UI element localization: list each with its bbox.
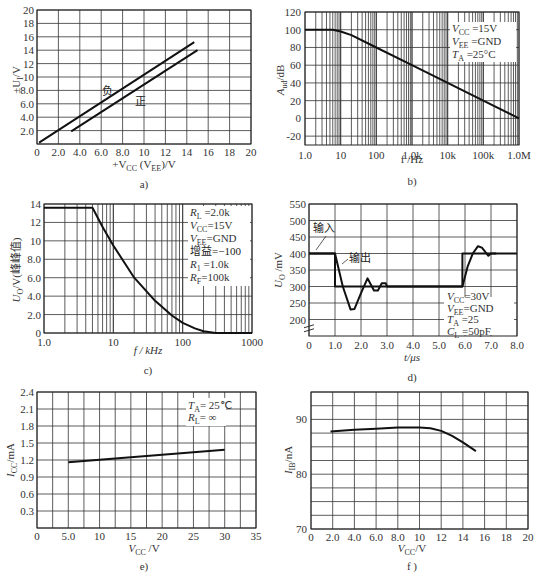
x-axis-label: +VCC (VEE)/V	[112, 158, 176, 173]
svg-text:12: 12	[160, 146, 171, 158]
annotation: CL =50pF	[447, 325, 491, 340]
x-axis-label: t/μs	[404, 351, 420, 363]
svg-text:0: 0	[36, 327, 42, 339]
x-axis-label: f / kHz	[134, 344, 163, 356]
chart-f-series-0	[331, 428, 476, 452]
svg-text:6.0: 6.0	[94, 146, 108, 158]
svg-text:250: 250	[290, 297, 307, 309]
svg-text:4.0: 4.0	[348, 531, 362, 543]
svg-text:0: 0	[34, 530, 40, 542]
svg-text:100: 100	[174, 336, 191, 348]
svg-text:6.0: 6.0	[458, 339, 472, 351]
svg-text:1.0: 1.0	[298, 149, 312, 161]
label-input: 输入	[313, 221, 335, 234]
svg-text:60: 60	[290, 59, 302, 71]
x-axis-label: f /Hz	[401, 153, 423, 165]
svg-text:16: 16	[203, 146, 215, 158]
svg-text:-20: -20	[286, 130, 301, 142]
svg-text:80: 80	[296, 468, 308, 480]
svg-text:0: 0	[306, 339, 312, 351]
y-axis-label: UO /mV	[272, 252, 287, 288]
svg-text:8.0: 8.0	[27, 253, 41, 265]
svg-text:350: 350	[290, 264, 307, 276]
label-negative: 负	[102, 84, 113, 97]
caption-b: b)	[407, 175, 417, 188]
svg-text:35: 35	[251, 530, 263, 542]
svg-text:25: 25	[188, 530, 200, 542]
svg-text:18: 18	[224, 146, 236, 158]
svg-text:400: 400	[290, 248, 307, 260]
svg-text:20: 20	[23, 4, 35, 16]
svg-text:18: 18	[23, 17, 35, 29]
svg-text:7.0: 7.0	[484, 339, 498, 351]
svg-text:15: 15	[125, 530, 137, 542]
svg-text:2.0: 2.0	[52, 146, 66, 158]
svg-text:200: 200	[290, 314, 307, 326]
chart-figure: 02.04.06.08.01012141618202.04.06.08.0101…	[0, 0, 537, 576]
chart-a-series-0	[39, 42, 194, 143]
svg-text:8.0: 8.0	[116, 146, 130, 158]
svg-text:3.0: 3.0	[380, 339, 394, 351]
svg-text:80: 80	[290, 41, 302, 53]
chart-d: 01.02.03.04.05.06.07.08.0550500450400350…	[272, 198, 524, 384]
label-positive: 正	[135, 95, 146, 107]
svg-text:16: 16	[23, 31, 35, 43]
svg-text:20: 20	[523, 531, 535, 543]
svg-text:100: 100	[285, 24, 302, 36]
svg-text:300: 300	[290, 281, 307, 293]
svg-text:10: 10	[94, 530, 106, 542]
svg-text:10k: 10k	[439, 149, 456, 161]
y-axis-label: Aud/dB	[274, 65, 289, 97]
chart-f: 02.04.06.08.0101214161820908070IIB/nAVCC…	[282, 392, 534, 573]
y-axis-label: UO/V(峰峰值)	[10, 237, 25, 302]
x-axis-label: VCC/V	[398, 542, 426, 557]
caption-f: f )	[407, 560, 417, 573]
svg-text:5.0: 5.0	[432, 339, 446, 351]
svg-text:10: 10	[30, 235, 42, 247]
svg-text:4.0: 4.0	[27, 290, 41, 302]
annotation-gain: 增益=−100	[190, 244, 241, 257]
svg-text:14: 14	[30, 198, 42, 210]
svg-text:500: 500	[290, 215, 307, 227]
svg-text:16: 16	[479, 531, 491, 543]
svg-text:40: 40	[290, 77, 302, 89]
chart-c: 1.01010010001412108.06.04.02.00RL =2.0kV…	[10, 198, 264, 377]
y-axis-label: IIB/nA	[282, 446, 297, 475]
svg-text:2.0: 2.0	[354, 339, 368, 351]
svg-text:1.5: 1.5	[20, 437, 34, 449]
svg-text:450: 450	[290, 231, 307, 243]
svg-text:4.0: 4.0	[73, 146, 87, 158]
svg-text:10: 10	[108, 336, 120, 348]
svg-text:12: 12	[23, 58, 34, 70]
svg-text:1.0M: 1.0M	[507, 149, 531, 161]
chart-a: 02.04.06.08.01012141618202.04.06.08.0101…	[10, 4, 257, 191]
svg-text:0: 0	[296, 112, 302, 124]
svg-text:30: 30	[219, 530, 231, 542]
svg-text:2.1: 2.1	[20, 403, 34, 415]
caption-e: e)	[140, 560, 149, 573]
svg-text:1.8: 1.8	[20, 420, 34, 432]
svg-text:1.0: 1.0	[328, 339, 342, 351]
svg-text:2.0: 2.0	[27, 309, 41, 321]
svg-text:0.9: 0.9	[20, 471, 34, 483]
svg-text:0.6: 0.6	[20, 488, 34, 500]
svg-text:70: 70	[296, 523, 308, 535]
svg-text:8.0: 8.0	[20, 84, 34, 96]
label-output: 输出	[349, 251, 371, 264]
svg-text:14: 14	[457, 531, 469, 543]
svg-text:90: 90	[296, 413, 308, 425]
svg-text:2.0: 2.0	[20, 125, 34, 137]
svg-text:20: 20	[157, 530, 169, 542]
svg-text:6.0: 6.0	[369, 531, 383, 543]
svg-text:0: 0	[34, 146, 40, 158]
x-axis-label: VCC /V	[128, 542, 159, 557]
svg-text:14: 14	[23, 44, 35, 56]
caption-a: a)	[140, 178, 149, 191]
svg-text:20: 20	[246, 146, 258, 158]
caption-d: d)	[407, 371, 417, 384]
svg-text:10: 10	[139, 146, 151, 158]
svg-text:2.4: 2.4	[20, 386, 34, 398]
svg-text:5.0: 5.0	[61, 530, 75, 542]
svg-text:6.0: 6.0	[20, 98, 34, 110]
svg-text:12: 12	[30, 216, 41, 228]
